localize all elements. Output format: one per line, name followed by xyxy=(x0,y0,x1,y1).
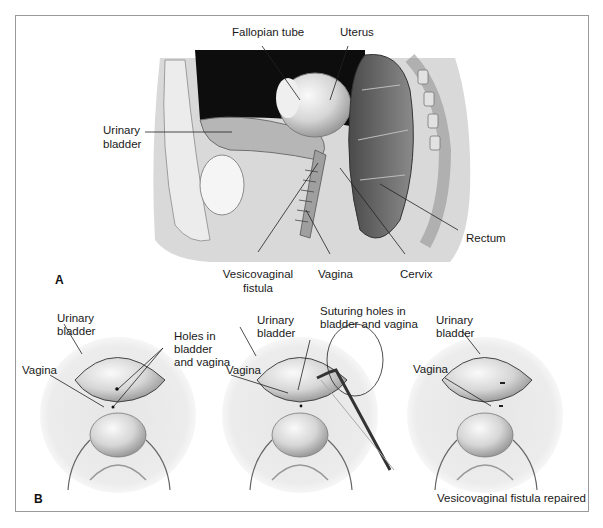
label-b1-bladder-line2: bladder xyxy=(57,325,95,338)
label-urinary-bladder-a-line2: bladder xyxy=(103,138,141,151)
sagittal-pelvis-illustration xyxy=(145,46,470,262)
label-b3-bladder-line2: bladder xyxy=(436,327,474,340)
label-b1-vagina: Vagina xyxy=(22,364,57,377)
label-b1-holes-line2: bladder xyxy=(174,343,212,356)
label-b2-suturing-line1: Suturing holes in xyxy=(320,305,406,318)
label-b1-bladder-line1: Urinary xyxy=(57,312,94,325)
label-b2-bladder-line2: bladder xyxy=(257,327,295,340)
label-b2-bladder-line1: Urinary xyxy=(257,314,294,327)
label-vesicovaginal-fistula-line2: fistula xyxy=(218,282,298,295)
panel-letter-a: A xyxy=(55,273,64,287)
label-b1-holes-line3: and vagina xyxy=(174,356,230,369)
label-b3-vagina: Vagina xyxy=(413,363,448,376)
label-fallopian-tube: Fallopian tube xyxy=(232,26,304,39)
label-urinary-bladder-a-line1: Urinary xyxy=(103,124,140,137)
label-uterus: Uterus xyxy=(340,26,374,39)
label-cervix: Cervix xyxy=(400,268,433,281)
label-b1-holes-line1: Holes in xyxy=(174,330,216,343)
label-b2-vagina: Vagina xyxy=(226,364,261,377)
anterior-view-1-illustration xyxy=(40,324,196,493)
anterior-view-2-illustration xyxy=(222,324,394,493)
label-vagina-a: Vagina xyxy=(318,268,353,281)
caption-fistula-repaired: Vesicovaginal fistula repaired xyxy=(437,492,586,505)
label-b3-bladder-line1: Urinary xyxy=(436,314,473,327)
label-b2-suturing-line2: bladder and vagina xyxy=(320,318,418,331)
label-vesicovaginal-fistula-line1: Vesicovaginal xyxy=(218,268,298,281)
illustration-artwork xyxy=(0,0,603,528)
label-rectum: Rectum xyxy=(466,232,506,245)
anterior-view-3-illustration xyxy=(407,331,563,493)
panel-letter-b: B xyxy=(34,492,43,506)
